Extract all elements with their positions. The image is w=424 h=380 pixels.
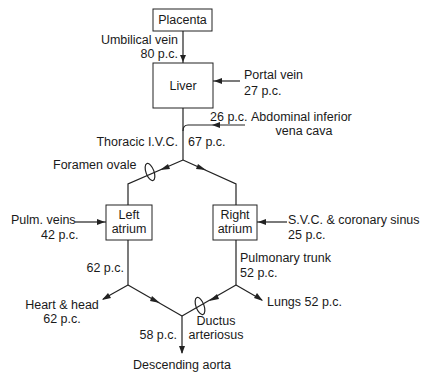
abd-ivc-label-2: vena cava — [251, 124, 357, 138]
abd-ivc-pc-label: 26 p.c. — [210, 110, 248, 124]
svc-pc-label: 25 p.c. — [288, 228, 326, 242]
foramen-ovale-label: Foramen ovale — [53, 158, 136, 172]
ductus-label-2: arteriosus — [186, 328, 246, 342]
lungs-label: Lungs 52 p.c. — [267, 295, 342, 309]
arrowhead-icon — [196, 164, 206, 170]
svc-label: S.V.C. & coronary sinus — [288, 213, 420, 227]
arrowhead-icon — [258, 219, 266, 225]
heart-head-label: Heart & head — [22, 298, 102, 312]
fetal-circulation-diagram: Placenta Liver Left atrium Right atrium … — [0, 0, 424, 380]
left-atrium-label-1: Left — [106, 208, 152, 222]
pulm-veins-label: Pulm. veins — [11, 213, 76, 227]
arrowhead-icon — [97, 219, 105, 225]
arrowhead-icon — [102, 293, 111, 300]
right-atrium-inflow-path — [183, 160, 236, 205]
right-atrium-label-2: atrium — [213, 222, 257, 236]
left-atrium-label-2: atrium — [106, 222, 152, 236]
heart-head-pc-label: 62 p.c. — [22, 312, 102, 326]
abd-ivc-label-1: Abdominal inferior — [251, 110, 352, 124]
descending-aorta-label: Descending aorta — [122, 358, 242, 372]
portal-pc-label: 27 p.c. — [244, 84, 282, 98]
pulmonary-trunk-label: Pulmonary trunk — [240, 251, 331, 265]
abdominal-ivc-line — [183, 125, 245, 131]
aorta-pc-label: 58 p.c. — [100, 328, 177, 342]
pulmonary-trunk-pc-label: 52 p.c. — [240, 266, 278, 280]
ductus-arteriosus-line — [182, 285, 236, 316]
arrowhead-icon — [214, 78, 222, 84]
arrowhead-icon — [179, 346, 185, 354]
placenta-label: Placenta — [153, 13, 212, 27]
pulm-veins-pc-label: 42 p.c. — [41, 228, 79, 242]
foramen-ovale-valve-icon — [143, 162, 157, 182]
arrowhead-icon — [160, 164, 170, 170]
liver-label: Liver — [153, 79, 213, 93]
right-atrium-label-1: Right — [213, 208, 257, 222]
arrowhead-icon — [254, 293, 263, 301]
thoracic-pc-label: 67 p.c. — [188, 135, 226, 149]
umbilical-vein-label: Umbilical vein — [60, 33, 178, 47]
ductus-label-1: Ductus — [186, 314, 246, 328]
arrowhead-icon — [180, 55, 186, 62]
thoracic-ivc-label: Thoracic I.V.C. — [60, 135, 178, 149]
left-outflow-pc-label: 62 p.c. — [60, 261, 124, 275]
umbilical-pc-label: 80 p.c. — [60, 47, 178, 61]
portal-vein-label: Portal vein — [244, 68, 303, 82]
arrowhead-icon — [150, 296, 160, 303]
